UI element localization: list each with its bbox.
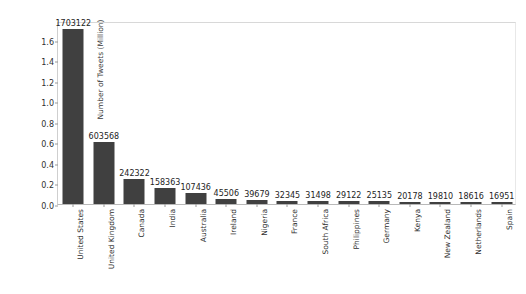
x-tick-mark	[348, 204, 349, 207]
bar-group[interactable]: 158363India	[150, 23, 181, 204]
bar-value-label: 29122	[336, 191, 361, 200]
y-tick-label: 1.2	[41, 78, 54, 87]
bar-value-label: 45506	[214, 189, 239, 198]
y-tick-label: 1.0	[41, 99, 54, 108]
x-tick-mark	[134, 204, 135, 207]
x-tick-mark	[471, 204, 472, 207]
x-tick-mark	[501, 204, 502, 207]
bar-value-label: 603568	[89, 132, 120, 141]
bar-value-label: 18616	[458, 192, 483, 201]
x-tick-label: Philippines	[352, 209, 361, 249]
bar-value-label: 25135	[367, 191, 392, 200]
x-tick-mark	[440, 204, 441, 207]
y-tick-label: 1.6	[41, 37, 54, 46]
bar-value-label: 31498	[305, 191, 330, 200]
y-tick-label: 1.4	[41, 58, 54, 67]
x-tick-mark	[103, 204, 104, 207]
bar-group[interactable]: 1703122United States	[58, 23, 89, 204]
x-tick-mark	[195, 204, 196, 207]
bar-group[interactable]: 19810New Zealand	[425, 23, 456, 204]
x-tick-mark	[73, 204, 74, 207]
bar-value-label: 20178	[397, 192, 422, 201]
x-tick-mark	[379, 204, 380, 207]
bar-value-label: 32345	[275, 191, 300, 200]
bar-value-label: 158363	[150, 178, 181, 187]
y-tick-label: 0.4	[41, 160, 54, 169]
x-tick-label: United Kingdom	[107, 209, 116, 269]
bar-group[interactable]: 18616Netherlands	[456, 23, 487, 204]
bar-value-label: 1703122	[55, 19, 91, 28]
y-tick-label: 0.2	[41, 181, 54, 190]
x-tick-label: France	[290, 209, 299, 234]
y-tick-label: 0.8	[41, 119, 54, 128]
bar-group[interactable]: 45506Ireland	[211, 23, 242, 204]
x-tick-mark	[318, 204, 319, 207]
x-tick-label: Spain	[505, 209, 514, 230]
clipped-title-text	[0, 0, 526, 5]
bar[interactable]	[185, 193, 206, 204]
bar-value-label: 16951	[489, 192, 514, 201]
x-tick-mark	[409, 204, 410, 207]
x-tick-label: Ireland	[229, 209, 238, 235]
bar-group[interactable]: 242322Canada	[119, 23, 150, 204]
plot-area: Number of Tweets (Million) 0.00.20.40.60…	[57, 22, 516, 205]
bar-value-label: 242322	[119, 169, 150, 178]
bar-value-label: 39679	[244, 190, 269, 199]
bar-group[interactable]: 32345France	[272, 23, 303, 204]
bar-value-label: 107436	[180, 183, 211, 192]
bar-group[interactable]: 25135Germany	[364, 23, 395, 204]
bar[interactable]	[93, 142, 114, 204]
bar-chart-figure: Number of Tweets (Million) 0.00.20.40.60…	[0, 0, 526, 294]
bar[interactable]	[155, 188, 176, 204]
x-tick-mark	[256, 204, 257, 207]
y-tick-mark	[55, 206, 58, 207]
x-tick-label: Canada	[137, 209, 146, 238]
bar-group[interactable]: 39679Nigeria	[242, 23, 273, 204]
x-tick-label: India	[168, 209, 177, 227]
x-tick-label: Netherlands	[474, 209, 483, 255]
bar-group[interactable]: 20178Kenya	[395, 23, 426, 204]
x-tick-mark	[287, 204, 288, 207]
bar-value-label: 19810	[428, 192, 453, 201]
x-tick-mark	[165, 204, 166, 207]
x-tick-label: Nigeria	[260, 209, 269, 236]
y-tick-label: 0.0	[41, 202, 54, 211]
x-tick-label: New Zealand	[443, 209, 452, 258]
bar-group[interactable]: 29122Philippines	[333, 23, 364, 204]
x-tick-label: Kenya	[413, 209, 422, 232]
x-tick-mark	[226, 204, 227, 207]
x-tick-label: Australia	[199, 209, 208, 242]
bar-group[interactable]: 107436Australia	[180, 23, 211, 204]
bar[interactable]	[63, 29, 84, 204]
bar-group[interactable]: 31498South Africa	[303, 23, 334, 204]
bar-group[interactable]: 603568United Kingdom	[89, 23, 120, 204]
bar[interactable]	[124, 179, 145, 204]
bar-group[interactable]: 16951Spain	[486, 23, 517, 204]
x-tick-label: United States	[76, 209, 85, 260]
y-tick-label: 0.6	[41, 140, 54, 149]
x-tick-label: South Africa	[321, 209, 330, 255]
x-tick-label: Germany	[382, 209, 391, 243]
